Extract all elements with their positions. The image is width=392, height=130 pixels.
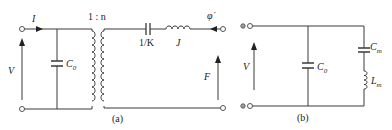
secondary-top-wire-left — [104, 29, 146, 31]
transformer-primary-coil-icon — [92, 31, 95, 101]
panel-b-caption: (b) — [297, 112, 309, 124]
force-label: F — [203, 71, 211, 82]
output-terminal-top — [221, 27, 226, 32]
terminal-b-top-inner — [248, 24, 253, 29]
transformer-ratio-label: 1 : n — [88, 11, 106, 22]
cm-label: Cm — [370, 41, 382, 55]
voltage-arrow-icon — [19, 38, 25, 46]
input-terminal-bottom — [20, 107, 25, 112]
inertia-label: J — [176, 37, 181, 48]
panel-a-caption: (a) — [112, 113, 123, 125]
current-label: I — [31, 13, 36, 24]
b-voltage-label: V — [243, 61, 251, 72]
transformer-secondary-coil-icon — [101, 31, 104, 101]
lm-label: Lm — [370, 75, 382, 89]
terminal-b-bottom-outer — [241, 104, 245, 108]
primary-bottom-wire — [25, 106, 93, 109]
input-terminal-top — [20, 27, 25, 32]
panel-a: I V C0 1 : n 1/K J φ̇ F — [8, 10, 226, 125]
secondary-bottom-wire — [104, 106, 221, 108]
b-voltage-arrow-icon — [251, 42, 257, 50]
b-c0-label: C0 — [317, 61, 328, 75]
current-arrow-icon — [36, 26, 43, 32]
compliance-label: 1/K — [139, 37, 155, 48]
angular-velocity-label: φ̇ — [207, 10, 216, 21]
terminal-b-bottom-inner — [248, 104, 253, 109]
compliance-capacitor-icon — [146, 23, 150, 35]
cm-capacitor-icon — [358, 48, 370, 52]
velocity-arrow-icon — [210, 26, 217, 32]
force-arrow-icon — [215, 55, 221, 63]
equivalent-circuit-diagram: I V C0 1 : n 1/K J φ̇ F — [0, 0, 392, 130]
b-c0-capacitor-icon — [302, 63, 314, 68]
c0-label: C0 — [66, 58, 77, 72]
output-terminal-bottom — [221, 106, 226, 111]
c0-capacitor-icon — [51, 61, 63, 66]
inertia-inductor-icon — [166, 26, 190, 29]
voltage-label: V — [8, 65, 16, 76]
terminal-b-top-outer — [241, 24, 245, 28]
primary-top-wire — [25, 29, 93, 31]
panel-b: V C0 Cm Lm (b) — [241, 24, 382, 125]
lm-inductor-icon — [364, 71, 367, 89]
